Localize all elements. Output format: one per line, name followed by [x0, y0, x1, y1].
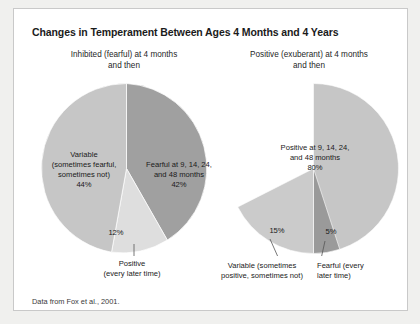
left-callout-positive: Positive (every later time): [82, 259, 182, 279]
left-slice-label-positive-pct: 12%: [96, 228, 136, 238]
right-slice-label-fearful-pct: 5%: [314, 227, 348, 237]
left-panel-heading: Inhibited (fearful) at 4 months and then: [34, 49, 214, 71]
source-note: Data from Fox et al., 2001.: [32, 297, 120, 306]
left-slice-label-variable: Variable (sometimes fearful, sometimes n…: [38, 150, 130, 190]
slice-variable-15: [238, 169, 314, 254]
left-slice-label-fearful: Fearful at 9, 14, 24, and 48 months 42%: [133, 160, 225, 190]
right-slice-label-positive: Positive at 9, 14, 24, and 48 months 80%: [252, 143, 378, 173]
figure-title: Changes in Temperament Between Ages 4 Mo…: [32, 26, 338, 38]
figure-frame: Changes in Temperament Between Ages 4 Mo…: [13, 8, 408, 311]
right-callout-fearful: Fearful (every later time): [317, 261, 397, 281]
right-slice-label-variable-pct: 15%: [257, 226, 297, 236]
right-callout-variable: Variable (sometimes positive, sometimes …: [210, 261, 314, 281]
right-panel-heading: Positive (exuberant) at 4 months and the…: [219, 49, 399, 71]
